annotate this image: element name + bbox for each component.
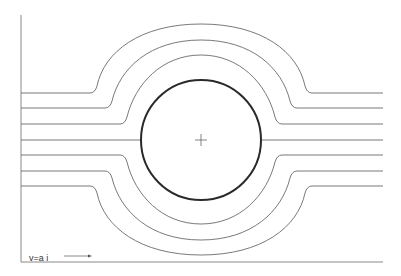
streamline-top-2 [21,40,383,108]
streamline-top-1 [21,24,383,93]
flow-diagram [0,0,401,276]
streamline-bottom-1 [21,155,383,224]
arrow-head-icon [88,255,92,258]
velocity-label: v=a i [29,253,48,263]
streamline-top-3 [21,55,383,124]
streamline-bottom-2 [21,171,383,240]
streamline-bottom-3 [21,186,383,255]
